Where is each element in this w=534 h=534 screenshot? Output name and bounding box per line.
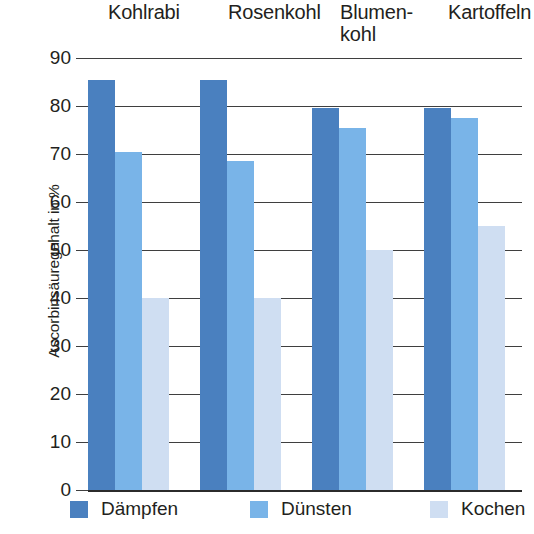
plot-area: 9080706050403020100 bbox=[88, 58, 522, 490]
y-tick-0 bbox=[76, 490, 88, 491]
bar-dünsten-3 bbox=[339, 128, 366, 490]
bar-dämpfen-3 bbox=[312, 108, 339, 490]
category-label-4: Kartoffeln bbox=[448, 2, 531, 24]
y-tick-label-50: 50 bbox=[50, 239, 71, 261]
category-label-1: Kohlrabi bbox=[108, 2, 180, 24]
bar-dämpfen-2 bbox=[200, 80, 227, 490]
y-tick-10 bbox=[76, 442, 88, 443]
gridline-90 bbox=[88, 58, 522, 59]
y-tick-80 bbox=[76, 106, 88, 107]
y-tick-40 bbox=[76, 298, 88, 299]
bar-kochen-2 bbox=[254, 298, 281, 490]
y-axis-title: Ascorbinsäuregehalt in % bbox=[45, 121, 63, 421]
legend-label-dünsten: Dünsten bbox=[281, 498, 352, 520]
y-tick-label-30: 30 bbox=[50, 335, 71, 357]
y-tick-90 bbox=[76, 58, 88, 59]
legend-swatch-icon-kochen bbox=[430, 501, 448, 518]
bar-dünsten-1 bbox=[115, 152, 142, 490]
y-tick-60 bbox=[76, 202, 88, 203]
category-label-row: KohlrabiRosenkohlBlumen- kohlKartoffeln bbox=[0, 0, 534, 50]
y-tick-label-20: 20 bbox=[50, 383, 71, 405]
legend-label-dämpfen: Dämpfen bbox=[101, 498, 178, 520]
legend-item-kochen[interactable]: Kochen bbox=[430, 498, 525, 520]
chart-page: KohlrabiRosenkohlBlumen- kohlKartoffeln … bbox=[0, 0, 534, 534]
bar-dünsten-2 bbox=[227, 161, 254, 490]
category-label-3: Blumen- kohl bbox=[340, 2, 413, 45]
legend-item-dünsten[interactable]: Dünsten bbox=[250, 498, 352, 520]
y-tick-label-80: 80 bbox=[50, 95, 71, 117]
category-label-2: Rosenkohl bbox=[228, 2, 321, 24]
bar-dämpfen-1 bbox=[88, 80, 115, 490]
bar-dünsten-4 bbox=[451, 118, 478, 490]
bar-kochen-3 bbox=[366, 250, 393, 490]
legend-swatch-icon-dünsten bbox=[250, 501, 268, 518]
bar-kochen-4 bbox=[478, 226, 505, 490]
gridline-80 bbox=[88, 106, 522, 107]
bar-dämpfen-4 bbox=[424, 108, 451, 490]
legend-item-dämpfen[interactable]: Dämpfen bbox=[70, 498, 178, 520]
chart-legend: DämpfenDünstenKochen bbox=[0, 498, 534, 534]
y-tick-50 bbox=[76, 250, 88, 251]
y-tick-label-40: 40 bbox=[50, 287, 71, 309]
y-tick-label-10: 10 bbox=[50, 431, 71, 453]
y-tick-20 bbox=[76, 394, 88, 395]
bar-kochen-1 bbox=[142, 298, 169, 490]
y-tick-label-60: 60 bbox=[50, 191, 71, 213]
y-tick-70 bbox=[76, 154, 88, 155]
y-tick-label-70: 70 bbox=[50, 143, 71, 165]
y-tick-30 bbox=[76, 346, 88, 347]
y-tick-label-90: 90 bbox=[50, 47, 71, 69]
x-axis-baseline bbox=[88, 490, 522, 492]
legend-swatch-icon-dämpfen bbox=[70, 501, 88, 518]
legend-label-kochen: Kochen bbox=[461, 498, 525, 520]
